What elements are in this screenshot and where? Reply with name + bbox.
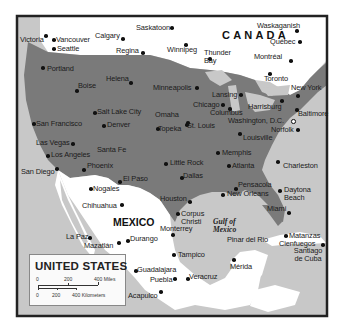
city-label-denver: Denver xyxy=(107,121,130,128)
scale-bar-km-tick xyxy=(38,285,39,290)
city-label-charleston: Charleston xyxy=(283,162,318,169)
city-dot-new-orleans xyxy=(221,193,225,197)
city-label-atlanta: Atlanta xyxy=(232,162,254,169)
city-dot-portland xyxy=(41,66,45,70)
city-dot-washington-dc xyxy=(291,119,296,124)
city-label-dallas: Dallas xyxy=(183,172,203,179)
city-label-baltimore: Baltimore xyxy=(298,110,328,117)
city-label-puebla: Puebla xyxy=(150,276,172,283)
water-label-gulf-of-mexico: Gulf of Mexico xyxy=(213,218,253,234)
city-label-regina: Regina xyxy=(116,47,139,54)
city-label-nogales: Nogales xyxy=(93,185,119,192)
city-dot-lansing xyxy=(239,93,243,97)
city-dot-mazatlan xyxy=(117,241,121,245)
city-dot-los-angeles xyxy=(46,154,50,158)
city-dot-puebla xyxy=(173,277,177,281)
city-dot-daytona-beach xyxy=(278,189,282,193)
city-label-vancouver: Vancouver xyxy=(56,36,90,43)
city-label-quebec: Québec xyxy=(270,38,295,45)
scale-km-label-400: 400 Kilometers xyxy=(72,292,105,298)
city-label-tampico: Tampico xyxy=(178,251,205,258)
city-dot-la-paz xyxy=(88,236,92,240)
city-dot-helena xyxy=(129,81,133,85)
city-label-minneapolis: Minneapolis xyxy=(153,84,191,91)
city-label-houston: Houston xyxy=(160,195,187,202)
city-dot-charleston xyxy=(276,160,280,164)
city-label-santiago-de-cuba: Santiago de Cuba xyxy=(291,247,325,263)
city-label-miami: Miami xyxy=(267,205,286,212)
city-label-mazatlan: Mazatlán xyxy=(84,242,113,249)
city-label-boise: Boise xyxy=(78,82,96,89)
city-label-thunder-bay: Thunder Bay xyxy=(204,49,232,65)
city-label-st-louis: St. Louis xyxy=(187,122,215,129)
city-dot-matanzas xyxy=(284,234,288,238)
scale-bar-line xyxy=(38,285,98,286)
city-label-pensacola: Pensacola xyxy=(238,181,272,188)
city-label-topeka: Topeka xyxy=(158,125,181,132)
city-label-louisville: Louisville xyxy=(243,134,272,141)
city-dot-acapulco xyxy=(159,290,163,294)
scale-bar-km-tick xyxy=(76,288,77,290)
scale-km-label-0: 0 xyxy=(36,292,39,298)
city-label-memphis: Memphis xyxy=(222,149,251,156)
city-label-daytona-beach-text: Daytona Beach xyxy=(284,186,314,202)
city-label-portland: Portland xyxy=(47,65,74,72)
city-label-omaha: Omaha xyxy=(155,111,179,118)
city-label-guadalajara: Guadalajara xyxy=(137,266,176,273)
city-label-harrisburg: Harrisburg xyxy=(248,103,282,110)
city-label-helena: Helena xyxy=(106,75,129,82)
city-dot-seattle xyxy=(52,47,56,51)
city-label-el-paso: El Paso xyxy=(123,175,148,182)
city-dot-memphis xyxy=(216,151,220,155)
city-label-las-vegas: Las Vegas xyxy=(36,139,70,146)
city-label-calgary: Calgary xyxy=(95,32,120,39)
city-dot-chihuahua xyxy=(120,203,124,207)
city-label-little-rock: Little Rock xyxy=(170,159,203,166)
city-label-new-orleans: New Orleans xyxy=(227,190,269,197)
city-label-salt-lake-city: Salt Lake City xyxy=(97,108,141,115)
city-dot-phoenix xyxy=(82,168,86,172)
city-dot-calgary xyxy=(121,37,125,41)
city-dot-miami xyxy=(287,211,291,215)
city-label-victoria: Victoria xyxy=(20,36,44,43)
city-label-chihuahua: Chihuahua xyxy=(82,202,117,209)
city-dot-minneapolis xyxy=(195,86,199,90)
city-label-washington-dc: Washington, D.C. xyxy=(228,117,284,124)
city-label-winnipeg: Winnipeg xyxy=(167,46,197,53)
city-label-lansing: Lansing xyxy=(212,91,237,98)
scale-bar-km-tick xyxy=(57,288,58,290)
city-dot-quebec xyxy=(298,40,302,44)
city-label-norfolk: Norfolk xyxy=(271,126,294,133)
city-label-san-diego: San Diego xyxy=(21,168,55,175)
city-label-monterrey: Monterrey xyxy=(160,225,192,232)
city-dot-corpus-christi xyxy=(176,212,180,216)
city-label-merida: Mérida xyxy=(230,263,252,270)
city-label-new-york: New York xyxy=(291,84,321,91)
city-dot-houston xyxy=(188,200,192,204)
city-dot-denver xyxy=(102,124,106,128)
city-dot-little-rock xyxy=(164,162,168,166)
city-dot-new-york xyxy=(296,94,300,98)
city-dot-atlanta xyxy=(227,164,231,168)
city-dot-las-vegas xyxy=(71,142,75,146)
city-dot-louisville xyxy=(238,132,242,136)
city-label-la-paz: La Paz xyxy=(66,233,88,240)
scale-bar-miles-tick xyxy=(68,283,69,285)
scale-bar-miles-tick xyxy=(98,282,99,285)
city-label-phoenix: Phoenix xyxy=(87,162,113,169)
city-label-saskatoon: Saskatoon xyxy=(136,24,170,31)
scale-miles-label-200: 200 xyxy=(64,276,72,282)
city-dot-victoria xyxy=(44,34,48,38)
city-label-durango: Durango xyxy=(130,235,158,242)
city-dot-saskatoon xyxy=(170,26,174,30)
city-label-toronto: Toronto xyxy=(264,75,288,82)
map-legend: UNITED STATES 0 200 400 Miles 0 200 400 … xyxy=(29,254,126,306)
city-dot-tampico xyxy=(172,253,176,257)
city-label-seattle: Seattle xyxy=(57,45,79,52)
city-label-pinar-del-rio: Pinar del Rio xyxy=(227,236,268,243)
country-label-mexico: MEXICO xyxy=(113,217,154,228)
city-dot-regina xyxy=(141,51,145,55)
legend-title: UNITED STATES xyxy=(35,260,127,272)
scale-km-label-200: 200 xyxy=(52,292,60,298)
city-dot-norfolk xyxy=(296,128,300,132)
